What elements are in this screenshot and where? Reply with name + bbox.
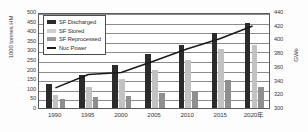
y-tick-label-left: 0: [12, 106, 36, 112]
y-tick-label-left: 250: [12, 58, 36, 64]
y-tick-label-left: 450: [12, 20, 36, 26]
y-tick-label-left: 300: [12, 48, 36, 54]
legend-swatch-icon: [47, 20, 56, 24]
chart-legend: SF DischargedSF StoredSF ReprocessedNuc …: [43, 15, 106, 55]
x-tick-label: 2005: [137, 112, 170, 118]
legend-label: Nuc Power: [59, 45, 86, 51]
legend-label: SF Reprocessed: [59, 36, 101, 42]
legend-swatch-icon: [47, 37, 56, 41]
legend-item: SF Discharged: [47, 18, 101, 27]
y-tick-label-right: 400: [274, 37, 300, 43]
x-tick-label: 2010: [171, 112, 204, 118]
legend-label: SF Discharged: [59, 19, 96, 25]
x-tick-label: 1990: [38, 112, 71, 118]
y-tick-label-right: 420: [274, 24, 300, 30]
legend-label: SF Stored: [59, 28, 84, 34]
legend-item: SF Stored: [47, 27, 101, 36]
y-tick-label-right: 440: [274, 10, 300, 16]
x-tick-label: 2015: [204, 112, 237, 118]
y-tick-label-left: 400: [12, 29, 36, 35]
y-tick-label-left: 50: [12, 96, 36, 102]
y-tick-label-left: 500: [12, 10, 36, 16]
y-tick-label-left: 350: [12, 39, 36, 45]
y-tick-label-right: 300: [274, 106, 300, 112]
y-tick-label-left: 150: [12, 77, 36, 83]
y-tick-label-right: 320: [274, 92, 300, 98]
legend-item: Nuc Power: [47, 44, 101, 53]
x-tick-label: 1995: [71, 112, 104, 118]
legend-swatch-icon: [47, 29, 56, 33]
legend-item: SF Reprocessed: [47, 35, 101, 44]
y-tick-label-right: 340: [274, 79, 300, 85]
legend-swatch-icon: [47, 46, 56, 50]
x-tick-label: 2020年: [237, 112, 270, 118]
y-tick-label-left: 100: [12, 87, 36, 93]
x-tick-label: 2000: [104, 112, 137, 118]
y-tick-label-right: 360: [274, 65, 300, 71]
y-tick-label-right: 380: [274, 51, 300, 57]
chart-container: 1000 tonnes HM GWe 500450400350300250200…: [0, 0, 308, 132]
y-tick-label-left: 200: [12, 68, 36, 74]
